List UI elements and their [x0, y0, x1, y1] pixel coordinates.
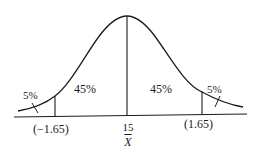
left-critical-label: (−1.65)	[33, 123, 69, 135]
right-tail-pointer	[215, 96, 220, 107]
mean-value-label: 15	[123, 122, 134, 133]
right-tail-percent: 5%	[207, 84, 222, 95]
normal-curve-figure: 5% 45% 45% 5% (−1.65) 15 X (1.65)	[0, 0, 257, 153]
bell-curve	[18, 16, 243, 111]
middle-right-percent: 45%	[150, 83, 172, 95]
right-critical-label: (1.65)	[184, 118, 213, 130]
left-tail-percent: 5%	[23, 90, 38, 101]
middle-left-percent: 45%	[74, 83, 96, 95]
mean-symbol-xbar: X	[124, 136, 131, 148]
